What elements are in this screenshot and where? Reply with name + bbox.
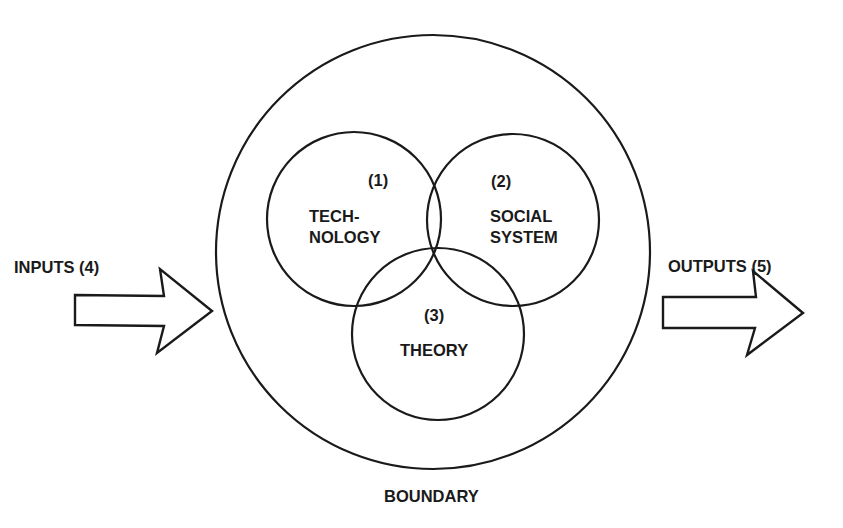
social-system-label-line1: SOCIAL [490, 207, 552, 225]
theory-circle [352, 248, 524, 420]
social-system-label-line2: SYSTEM [490, 228, 558, 246]
technology-label-line2: NOLOGY [309, 228, 381, 246]
technology-number: (1) [368, 171, 388, 189]
system-diagram: INPUTS (4) OUTPUTS (5) (1) TECH- NOLOGY … [0, 0, 843, 528]
technology-label-line1: TECH- [309, 207, 359, 225]
social-system-number: (2) [491, 172, 511, 190]
outputs-arrow-icon [663, 271, 803, 355]
theory-label: THEORY [400, 341, 468, 359]
outputs-label: OUTPUTS (5) [668, 257, 772, 275]
inputs-arrow-icon [75, 269, 212, 353]
inputs-label: INPUTS (4) [14, 258, 99, 276]
boundary-label: BOUNDARY [384, 487, 479, 505]
theory-number: (3) [424, 306, 444, 324]
